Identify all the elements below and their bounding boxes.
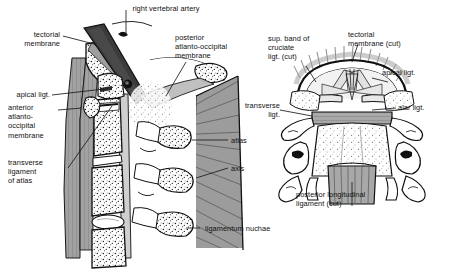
label-right-vertebral-artery: right vertebral artery <box>106 4 226 13</box>
label-apical-ligament-posterior: apical ligt. <box>382 68 442 77</box>
label-tectorial-membrane: tectorial membrane <box>0 30 60 48</box>
label-ligamentum-nuchae: ligamentum nuchae <box>205 224 315 233</box>
label-apical-ligament: apical ligt. <box>0 90 50 99</box>
anatomical-figure: right vertebral artery tectorial membran… <box>0 0 451 272</box>
label-anterior-atlanto-occipital-membrane: anterior atlanto- occipital membrane <box>8 103 70 140</box>
label-posterior-atlanto-occipital-membrane: posterior atlanto-occipital membrane <box>175 33 257 61</box>
label-atlas: atlas <box>231 136 265 145</box>
label-axis: axis <box>231 164 265 173</box>
label-tectorial-membrane-cut: tectorial membrane (cut) <box>348 30 436 48</box>
label-posterior-longitudinal-ligament-cut: posterior longitudinal ligament (cut) <box>296 190 416 208</box>
label-sup-band-of-cruciate-ligament-cut: sup. band of cruciate ligt. (cut) <box>268 34 334 62</box>
label-alar-ligament: alar ligt. <box>398 103 450 112</box>
label-transverse-ligament: transverse ligt. <box>222 101 280 119</box>
label-transverse-ligament-of-atlas: transverse ligament of atlas <box>8 158 70 186</box>
